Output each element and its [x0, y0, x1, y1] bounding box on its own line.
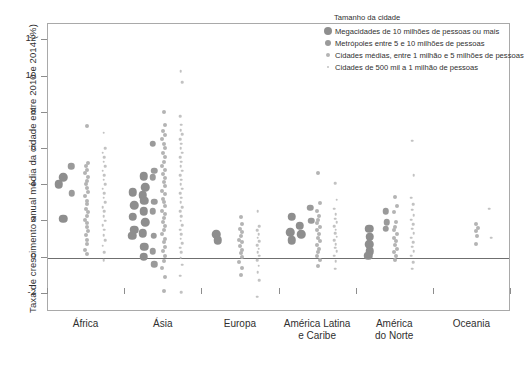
- data-point: [179, 201, 182, 204]
- data-point: [411, 227, 414, 230]
- data-point: [181, 81, 184, 84]
- data-point: [412, 223, 415, 226]
- data-point: [395, 204, 399, 208]
- data-point: [180, 178, 183, 181]
- data-point: [334, 246, 337, 249]
- data-point: [179, 219, 182, 222]
- data-point: [335, 213, 338, 216]
- data-point: [163, 245, 167, 249]
- data-point: [214, 236, 223, 245]
- data-point: [335, 236, 338, 239]
- data-point: [257, 233, 260, 236]
- data-point: [490, 236, 493, 239]
- legend-label: Cidades de 500 mil a 1 milhão de pessoas: [335, 63, 478, 72]
- data-point: [412, 214, 415, 217]
- data-point: [410, 197, 413, 200]
- data-point: [85, 252, 89, 256]
- data-point: [411, 267, 414, 270]
- data-point: [104, 165, 107, 168]
- data-point: [163, 204, 167, 208]
- data-point: [179, 246, 182, 249]
- data-point: [335, 250, 338, 253]
- legend-label: Cidades médias, entre 1 milhão e 5 milhõ…: [335, 51, 524, 60]
- data-point: [150, 174, 157, 181]
- data-point: [316, 264, 320, 268]
- y-tick-label: 10: [25, 69, 36, 80]
- data-point: [163, 168, 167, 172]
- data-point: [240, 222, 244, 226]
- data-point: [237, 260, 241, 264]
- data-point: [150, 208, 157, 215]
- data-point: [334, 267, 337, 270]
- data-point: [410, 218, 413, 221]
- data-point: [85, 225, 89, 229]
- data-point: [256, 295, 259, 298]
- y-tick-label: 2: [31, 213, 36, 224]
- data-point: [161, 129, 165, 133]
- data-point: [86, 190, 90, 194]
- data-point: [103, 174, 106, 177]
- data-point: [163, 176, 167, 180]
- data-point: [410, 255, 413, 258]
- data-point: [55, 180, 64, 189]
- data-point: [392, 210, 396, 214]
- data-point: [102, 160, 105, 163]
- data-point: [102, 178, 105, 181]
- data-point: [139, 229, 148, 238]
- data-point: [104, 201, 107, 204]
- data-point: [333, 239, 336, 242]
- data-point: [162, 110, 166, 114]
- data-point: [162, 160, 166, 164]
- data-point: [179, 138, 182, 141]
- data-point: [83, 248, 87, 252]
- data-point: [161, 151, 165, 155]
- data-point: [179, 129, 182, 132]
- data-point: [103, 228, 106, 231]
- data-point: [103, 192, 106, 195]
- legend: Tamanho da cidade Megacidades de 10 milh…: [322, 13, 518, 73]
- data-point: [101, 188, 104, 191]
- data-point: [412, 203, 415, 206]
- data-point: [181, 242, 184, 245]
- x-axis-label: América Latina e Caribe: [279, 318, 356, 341]
- data-point: [160, 232, 164, 236]
- data-point: [256, 259, 259, 262]
- data-point: [334, 232, 337, 235]
- data-point: [181, 206, 184, 209]
- legend-label: Megacidades de 10 milhões de pessoas ou …: [335, 27, 499, 36]
- data-point: [412, 174, 415, 177]
- data-point: [181, 151, 184, 154]
- data-point: [83, 194, 87, 198]
- data-point: [101, 169, 104, 172]
- data-point: [179, 174, 182, 177]
- data-point: [104, 219, 107, 222]
- y-tick-label: 8: [31, 105, 36, 116]
- data-point: [412, 261, 415, 264]
- data-point: [181, 224, 184, 227]
- data-point: [141, 218, 150, 227]
- data-point: [180, 160, 183, 163]
- legend-entries: Megacidades de 10 milhões de pessoas ou …: [322, 25, 518, 73]
- data-point: [307, 205, 314, 212]
- data-point: [102, 215, 105, 218]
- data-point: [256, 229, 259, 232]
- data-point: [258, 279, 261, 282]
- data-point: [333, 225, 336, 228]
- data-point: [179, 156, 182, 159]
- x-axis-label: Ásia: [124, 318, 201, 330]
- data-point: [139, 172, 148, 181]
- data-point: [410, 236, 413, 239]
- data-point: [411, 140, 414, 143]
- data-point: [180, 215, 183, 218]
- data-point: [181, 188, 184, 191]
- data-point: [393, 195, 397, 199]
- data-point: [258, 255, 261, 258]
- data-point: [151, 198, 158, 205]
- data-point: [162, 216, 166, 220]
- data-point: [162, 259, 166, 263]
- x-tick-mark: [510, 288, 511, 294]
- data-point: [335, 198, 338, 201]
- data-point: [84, 233, 88, 237]
- data-point: [104, 183, 107, 186]
- data-point: [140, 243, 149, 252]
